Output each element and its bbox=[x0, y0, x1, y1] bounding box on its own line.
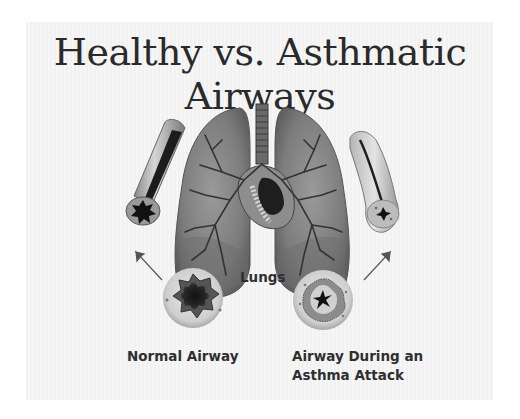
normal-airway-tube bbox=[126, 120, 185, 225]
asthma-airway-label-line1: Airway During an bbox=[292, 347, 423, 366]
arrow-normal bbox=[136, 252, 162, 280]
normal-airway-cross-section bbox=[163, 268, 223, 328]
asthma-airway-tube bbox=[350, 131, 399, 232]
normal-airway-label: Normal Airway bbox=[127, 347, 238, 366]
arrow-asthma bbox=[364, 252, 390, 280]
asthma-airway-cross-section bbox=[293, 270, 353, 330]
diagram-illustration bbox=[0, 0, 520, 419]
lungs-label: Lungs bbox=[240, 268, 286, 287]
asthma-airway-label-line2: Asthma Attack bbox=[292, 366, 404, 385]
